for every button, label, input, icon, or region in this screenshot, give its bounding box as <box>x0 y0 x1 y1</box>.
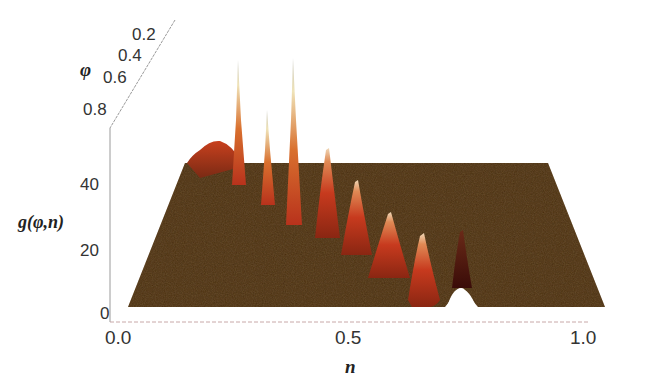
spike-1 <box>232 60 246 185</box>
z-tick-0: 0 <box>100 305 109 322</box>
surface-plot: 0.2 0.4 0.6 0.8 φ 40 20 0 g(φ,n) 0.0 0.5… <box>0 0 647 381</box>
x-axis-label: n <box>345 357 356 376</box>
z-tick-40: 40 <box>80 176 99 193</box>
x-tick-0: 0.0 <box>105 328 131 347</box>
y-tick-1: 0.4 <box>118 47 142 64</box>
y-tick-0: 0.2 <box>132 26 156 43</box>
y-axis-label: φ <box>80 60 91 79</box>
x-tick-2: 1.0 <box>570 328 596 347</box>
x-tick-1: 0.5 <box>335 328 361 347</box>
z-tick-20: 20 <box>80 242 99 259</box>
y-tick-3: 0.8 <box>83 101 107 118</box>
z-axis-label: g(φ,n) <box>18 213 64 231</box>
spike-2 <box>261 110 275 205</box>
y-tick-2: 0.6 <box>103 69 127 86</box>
spike-3 <box>286 58 302 225</box>
